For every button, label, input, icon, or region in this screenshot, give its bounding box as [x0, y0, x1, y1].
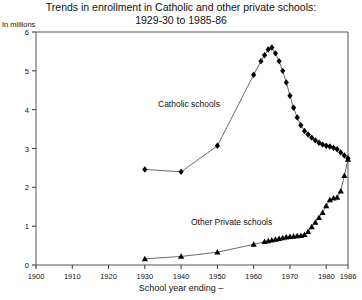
y-tick-label-6: 6 [25, 28, 29, 37]
marker-0 [276, 58, 281, 64]
marker-1 [345, 156, 351, 162]
x-tick-label-1980: 1980 [318, 272, 335, 281]
marker-1 [323, 203, 329, 209]
y-tick-label-1: 1 [25, 222, 29, 231]
y-tick-label-5: 5 [25, 67, 29, 76]
marker-1 [334, 194, 340, 200]
marker-0 [287, 92, 292, 98]
marker-0 [295, 114, 300, 120]
chart-page: Trends in enrollment in Catholic and oth… [0, 0, 362, 300]
marker-0 [291, 105, 296, 111]
x-tick-label-1910: 1910 [64, 272, 81, 281]
marker-0 [284, 79, 289, 85]
marker-0 [327, 143, 332, 149]
marker-0 [251, 72, 256, 78]
series-label-other-private: Other Private schools [191, 217, 272, 227]
marker-0 [142, 166, 147, 172]
x-tick-label-1940: 1940 [173, 272, 190, 281]
marker-1 [320, 209, 326, 215]
marker-1 [341, 173, 347, 179]
marker-0 [215, 143, 220, 149]
x-tick-label-1930: 1930 [136, 272, 153, 281]
series-line-0 [145, 48, 348, 172]
marker-0 [179, 169, 184, 175]
x-tick-label-1900: 1900 [28, 272, 45, 281]
plot-frame [36, 32, 348, 265]
y-tick-label-0: 0 [25, 261, 29, 270]
marker-0 [280, 68, 285, 74]
x-tick-label-1970: 1970 [282, 272, 299, 281]
series-label-catholic: Catholic schools [158, 99, 220, 109]
x-tick-label-1986: 1986 [340, 272, 357, 281]
x-tick-label-1920: 1920 [100, 272, 117, 281]
x-tick-label-1960: 1960 [245, 272, 262, 281]
x-tick-label-1950: 1950 [209, 272, 226, 281]
y-tick-label-2: 2 [25, 183, 29, 192]
y-tick-label-4: 4 [25, 106, 29, 115]
marker-1 [316, 215, 322, 221]
series-line-1 [145, 159, 348, 258]
x-axis-title: School year ending – [0, 283, 362, 293]
y-tick-label-3: 3 [25, 145, 29, 154]
marker-1 [338, 188, 344, 194]
chart-plot: 0123456190019101920193019401950196019701… [0, 0, 362, 300]
